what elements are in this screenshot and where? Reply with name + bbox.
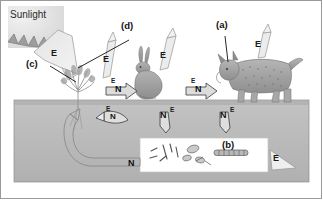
callout-a-label: (a) (216, 20, 228, 30)
label-plant-to-soil-nutrient: N (110, 113, 116, 121)
label-rabbit-energy-loss: E (160, 51, 166, 60)
label-plant-to-rabbit-nutrient: N (115, 85, 122, 94)
arrow-rabbit-energy-loss (160, 28, 176, 70)
callout-c-label: (c) (26, 59, 38, 69)
label-rabbit-to-lynx-nutrient: N (195, 85, 202, 94)
ecosystem-energy-nutrient-diagram: Sunlight (a) (b) (c) (d) E E E E E N E N… (0, 0, 323, 200)
label-rabbit-to-decomposers-nutrient: N (160, 111, 167, 120)
callout-d-label: (d) (121, 21, 133, 31)
sunlight-label: Sunlight (10, 10, 46, 20)
leader-a (225, 36, 228, 62)
rabbit-herbivore (135, 46, 162, 99)
label-lynx-energy-loss: E (255, 40, 261, 49)
label-lynx-to-decomposers-energy: E (230, 107, 234, 114)
label-plant-energy-loss: E (103, 55, 109, 64)
arrow-plant-to-rabbit (106, 83, 137, 99)
arrow-rabbit-to-lynx (186, 83, 217, 99)
label-decomposers-energy-loss: E (273, 154, 279, 163)
label-sunlight-energy: E (51, 49, 57, 58)
diagram-canvas (0, 0, 323, 200)
decomposers (140, 138, 268, 172)
lynx-predator (217, 51, 303, 102)
callout-b-label: (b) (222, 140, 234, 150)
label-decomposers-to-plant-nutrient: N (128, 159, 135, 168)
label-lynx-to-decomposers-nutrient: N (220, 111, 227, 120)
label-rabbit-to-decomposers-energy: E (170, 107, 174, 114)
